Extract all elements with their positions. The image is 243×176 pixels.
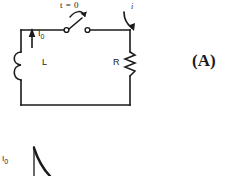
initial-current-arrow: [29, 28, 36, 48]
panel-label: (A): [192, 52, 216, 69]
switch-terminal-left: [64, 28, 69, 33]
graph-decay-curve: [34, 148, 50, 176]
switch-blade: [69, 18, 82, 29]
figure-canvas: t = 0 i I0 L R (A) I0: [0, 0, 243, 176]
inductor-label: L: [42, 58, 47, 67]
inductor-symbol: [14, 52, 21, 80]
switch-terminal-right: [85, 28, 90, 33]
circuit-wires: [21, 30, 130, 105]
switch-symbol: [64, 12, 90, 33]
circuit-drawing: [0, 0, 243, 176]
switch-time-label: t = 0: [60, 1, 79, 10]
resistor-symbol: [125, 52, 135, 76]
loop-current-arrow: [124, 12, 135, 31]
decay-graph-fragment: [34, 146, 50, 176]
current-label: i: [131, 3, 133, 11]
initial-current-label: I0: [38, 29, 44, 40]
graph-y-axis-label: I0: [2, 155, 8, 165]
resistor-label: R: [113, 58, 120, 67]
